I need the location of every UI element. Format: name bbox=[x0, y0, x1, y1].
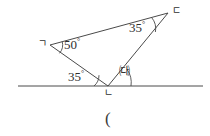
geometry-figure: ㄱ ㄷ ㄴ 50° 35° 35° ㈐ ( bbox=[0, 0, 210, 136]
angle-label-d-value: 35 bbox=[129, 20, 142, 35]
angle-label-g-value: 50 bbox=[64, 37, 77, 52]
angle-label-g: 50° bbox=[64, 38, 80, 51]
degree-symbol-d: ° bbox=[142, 20, 145, 29]
trailing-parenthesis: ( bbox=[105, 110, 111, 127]
degree-symbol-n-left: ° bbox=[81, 69, 84, 78]
angle-label-n-left: 35° bbox=[68, 70, 84, 83]
vertex-label-d: ㄷ bbox=[172, 6, 181, 16]
vertex-label-g: ㄱ bbox=[38, 39, 47, 49]
angle-label-d: 35° bbox=[129, 21, 145, 34]
degree-symbol-g: ° bbox=[77, 37, 80, 46]
vertex-label-n: ㄴ bbox=[104, 88, 113, 98]
unknown-angle-marker: ㈐ bbox=[119, 66, 130, 77]
angle-label-n-left-value: 35 bbox=[68, 69, 81, 84]
